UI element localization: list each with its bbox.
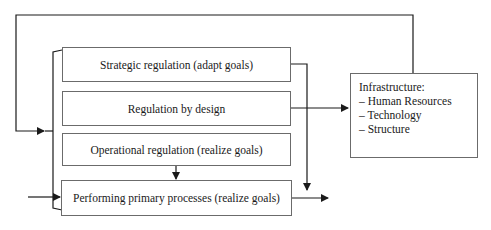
- regulation-by-design-box: Regulation by design: [62, 91, 291, 126]
- primary-processes-box: Performing primary processes (realize go…: [61, 180, 292, 216]
- infrastructure-item-structure: – Structure: [359, 122, 477, 136]
- strategic-to-output-line: [290, 64, 307, 190]
- strategic-regulation-label: Strategic regulation (adapt goals): [100, 59, 253, 71]
- operational-regulation-label: Operational regulation (realize goals): [90, 144, 262, 156]
- operational-regulation-box: Operational regulation (realize goals): [62, 133, 291, 166]
- infrastructure-box: Infrastructure: – Human Resources – Tech…: [350, 73, 478, 158]
- infrastructure-item-technology: – Technology: [359, 108, 477, 122]
- regulation-by-design-label: Regulation by design: [128, 103, 226, 115]
- strategic-regulation-box: Strategic regulation (adapt goals): [62, 47, 291, 82]
- infrastructure-item-human-resources: – Human Resources: [359, 94, 477, 108]
- primary-processes-label: Performing primary processes (realize go…: [73, 192, 280, 204]
- infrastructure-title: Infrastructure:: [359, 80, 477, 94]
